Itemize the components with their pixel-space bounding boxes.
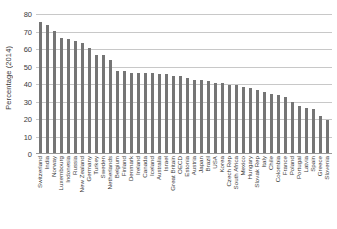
y-axis-tick-label: 70 — [24, 27, 32, 36]
bar — [249, 88, 252, 153]
bar — [74, 41, 77, 153]
bar-slot — [261, 14, 268, 153]
bar-slot — [79, 14, 86, 153]
bar-slot — [268, 14, 275, 153]
bar-slot — [163, 14, 170, 153]
bar-slot — [275, 14, 282, 153]
bar — [172, 76, 175, 153]
bar-slot — [114, 14, 121, 153]
y-axis-tick-label: 40 — [24, 80, 32, 89]
bar — [263, 92, 266, 153]
bar — [200, 80, 203, 154]
bar-slot — [37, 14, 44, 153]
bar-slot — [177, 14, 184, 153]
bar-slot — [226, 14, 233, 153]
y-axis-tick-label: 80 — [24, 10, 32, 19]
x-axis-label-slot: Slovenia — [324, 156, 331, 228]
bar-slot — [198, 14, 205, 153]
bar — [214, 83, 217, 153]
bar-slot — [100, 14, 107, 153]
x-axis-tick-labels: SwitzerlandIndiaNorwayLuxembourgIndonesi… — [36, 156, 332, 228]
bar-slot — [282, 14, 289, 153]
bar — [284, 97, 287, 153]
bar-slot — [254, 14, 261, 153]
bar — [151, 73, 154, 154]
bar-slot — [310, 14, 317, 153]
bar-chart: Percentage (2014) 01020304050607080 Swit… — [0, 0, 337, 229]
bar — [39, 22, 42, 153]
bar-slot — [212, 14, 219, 153]
bar-slot — [107, 14, 114, 153]
y-axis-tick-label: 50 — [24, 62, 32, 71]
bar-slot — [324, 14, 331, 153]
bars-layer — [36, 14, 332, 153]
bar-slot — [240, 14, 247, 153]
bar — [277, 95, 280, 153]
bar-slot — [128, 14, 135, 153]
bar — [179, 76, 182, 153]
bar — [95, 55, 98, 153]
bar-slot — [184, 14, 191, 153]
bar — [130, 73, 133, 154]
bar-slot — [170, 14, 177, 153]
bar — [109, 60, 112, 153]
bar-slot — [219, 14, 226, 153]
bar — [291, 102, 294, 153]
bar-slot — [303, 14, 310, 153]
bar — [207, 81, 210, 153]
bar — [81, 43, 84, 153]
bar-slot — [121, 14, 128, 153]
bar-slot — [289, 14, 296, 153]
bar-slot — [156, 14, 163, 153]
bar — [165, 74, 168, 153]
bar — [186, 78, 189, 153]
bar-slot — [247, 14, 254, 153]
bar — [60, 38, 63, 154]
y-axis-tick-label: 20 — [24, 115, 32, 124]
bar-slot — [191, 14, 198, 153]
bar — [193, 80, 196, 154]
bar — [305, 108, 308, 154]
bar — [144, 73, 147, 154]
bar-slot — [44, 14, 51, 153]
bar — [319, 116, 322, 153]
bar-slot — [296, 14, 303, 153]
bar — [123, 71, 126, 153]
bar-slot — [72, 14, 79, 153]
bar — [88, 48, 91, 153]
bar — [256, 90, 259, 153]
y-axis-tick-label: 60 — [24, 45, 32, 54]
y-axis-tick-label: 0 — [28, 150, 32, 159]
bar — [270, 94, 273, 154]
bar-slot — [135, 14, 142, 153]
bar — [137, 73, 140, 154]
bar-slot — [51, 14, 58, 153]
bar — [312, 109, 315, 153]
bar — [228, 85, 231, 153]
bar — [102, 55, 105, 153]
bar-slot — [86, 14, 93, 153]
bar — [46, 25, 49, 153]
bar-slot — [149, 14, 156, 153]
bar-slot — [317, 14, 324, 153]
bar — [53, 31, 56, 154]
bar-slot — [93, 14, 100, 153]
bar-slot — [205, 14, 212, 153]
bar-slot — [142, 14, 149, 153]
bar-slot — [65, 14, 72, 153]
bar — [326, 120, 329, 153]
y-axis-tick-label: 10 — [24, 132, 32, 141]
bar — [235, 85, 238, 153]
plot-area — [36, 14, 332, 154]
x-axis-tick-label: Slovenia — [324, 156, 330, 180]
bar — [116, 71, 119, 153]
bar-slot — [58, 14, 65, 153]
y-axis-tick-labels: 01020304050607080 — [14, 14, 34, 154]
bar — [158, 74, 161, 153]
bar — [67, 39, 70, 153]
y-axis-title-label: Percentage (2014) — [4, 46, 13, 110]
y-axis-tick-label: 30 — [24, 97, 32, 106]
bar-slot — [233, 14, 240, 153]
bar — [242, 87, 245, 154]
bar — [298, 106, 301, 153]
